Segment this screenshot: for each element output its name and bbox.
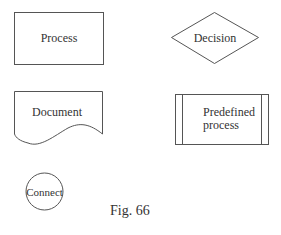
- predefined-label-line1: Predefined: [203, 105, 255, 119]
- figure-caption: Fig. 66: [110, 203, 150, 218]
- process-symbol: Process: [15, 13, 104, 65]
- flowchart-symbols-diagram: Process Decision Document Predefined pro…: [0, 0, 281, 235]
- document-label: Document: [32, 105, 83, 119]
- connect-label: Connect: [26, 186, 63, 198]
- decision-symbol: Decision: [172, 13, 259, 64]
- process-label: Process: [41, 31, 78, 45]
- document-symbol: Document: [15, 92, 103, 145]
- predefined-process-symbol: Predefined process: [176, 95, 269, 145]
- predefined-label-line2: process: [203, 118, 239, 132]
- connect-symbol: Connect: [26, 173, 63, 210]
- decision-label: Decision: [194, 31, 237, 45]
